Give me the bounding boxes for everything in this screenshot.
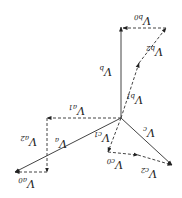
svg-text:Vb1: Vb1	[126, 92, 143, 106]
phasor-subscript: c	[143, 125, 147, 133]
phasor-subscript: c2	[140, 166, 149, 174]
phasor-vb1-arrow	[121, 63, 139, 118]
phasor-subscript: b2	[146, 44, 155, 52]
phasor-subscript: b0	[134, 13, 143, 21]
phasor-subscript: c0	[106, 157, 115, 165]
phasor-vc0-arrow	[108, 152, 138, 155]
svg-text:Va2: Va2	[20, 134, 37, 148]
svg-text:Vb2: Vb2	[146, 44, 163, 58]
phasor-vc2-label: Vc2	[140, 166, 157, 180]
phasor-va2-label: Va2	[20, 134, 37, 148]
phasor-vc0-label: Vc0	[106, 157, 123, 171]
phasor-vb1-label: Vb1	[126, 92, 143, 106]
phasor-subscript: b1	[126, 92, 135, 100]
svg-text:Vb: Vb	[99, 64, 112, 78]
phasor-va-label: Va	[55, 136, 67, 150]
phasor-vc1-label: Vc1	[94, 130, 110, 144]
svg-text:Vc2: Vc2	[140, 166, 157, 180]
svg-text:Va1: Va1	[68, 103, 85, 117]
phasor-subscript: a0	[18, 176, 27, 184]
svg-text:Va0: Va0	[18, 176, 35, 190]
phasor-vb2-label: Vb2	[146, 44, 163, 58]
svg-text:Vc1: Vc1	[94, 130, 110, 144]
phasor-vb-label: Vb	[99, 64, 112, 78]
phasor-va1-label: Va1	[68, 103, 85, 117]
phasor-subscript: a	[55, 136, 59, 144]
phasor-subscript: b	[99, 64, 104, 72]
phasor-subscript: a2	[20, 134, 29, 142]
phasor-subscript: c1	[94, 130, 102, 138]
phasor-vb0-label: Vb0	[134, 13, 151, 27]
phasor-diagram: VaVbVcVa1Va2Va0Vb1Vb2Vb0Vc1Vc0Vc2	[0, 0, 182, 198]
phasor-labels: VaVbVcVa1Va2Va0Vb1Vb2Vb0Vc1Vc0Vc2	[18, 13, 163, 190]
phasor-subscript: a1	[68, 103, 77, 111]
svg-text:Vc0: Vc0	[106, 157, 123, 171]
svg-text:Vb0: Vb0	[134, 13, 151, 27]
phasor-vc-label: Vc	[143, 125, 155, 139]
svg-text:Vc: Vc	[143, 125, 155, 139]
phasor-va0-label: Va0	[18, 176, 35, 190]
svg-text:Va: Va	[55, 136, 67, 150]
